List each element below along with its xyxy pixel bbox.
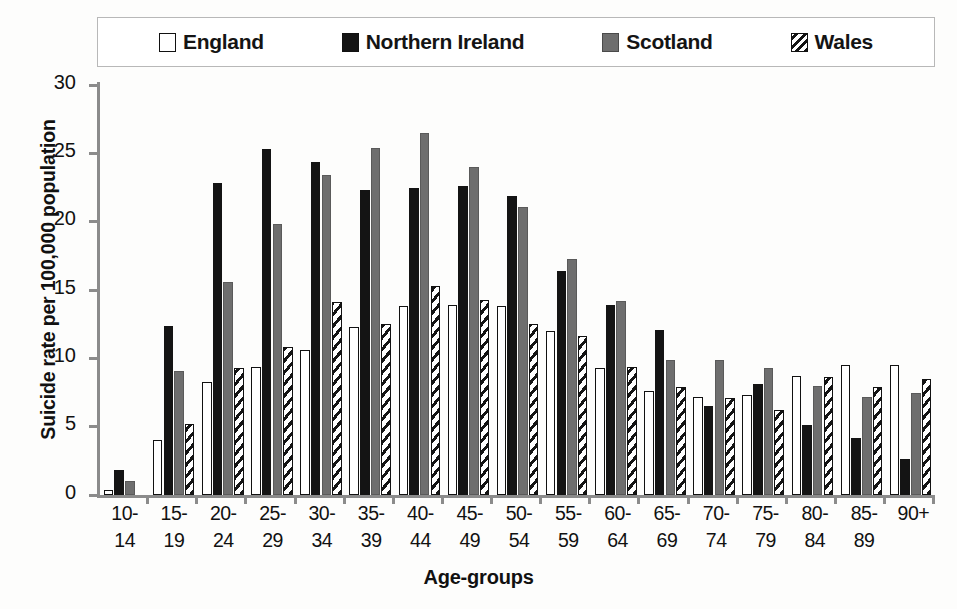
bar-england: [841, 365, 851, 495]
x-axis-tick-label: 85-89: [839, 500, 888, 554]
y-axis-tick-label: 10: [38, 344, 76, 367]
bar-group: [640, 85, 689, 495]
legend-item-scotland: Scotland: [602, 30, 712, 54]
bar-scotland: [666, 360, 676, 495]
bar-northern-ireland: [704, 406, 714, 495]
bar-wales: [480, 300, 490, 495]
bar-northern-ireland: [213, 183, 223, 495]
x-axis-line: [97, 495, 935, 498]
bar-group: [346, 85, 395, 495]
bar-scotland: [862, 397, 872, 495]
x-axis-tick-label: 90+: [889, 500, 938, 554]
chart-legend: England Northern Ireland Scotland Wales: [97, 17, 935, 67]
x-axis-tick-label: 25-29: [248, 500, 297, 554]
bar-wales: [774, 410, 784, 495]
x-axis-tick-label: 30-34: [297, 500, 346, 554]
x-axis-tick-label: 15-19: [149, 500, 198, 554]
y-axis-tick: 15: [89, 289, 98, 292]
y-axis-tick: 30: [89, 84, 98, 87]
bar-group: [247, 85, 296, 495]
y-axis-tick: 25: [89, 152, 98, 155]
bar-northern-ireland: [655, 330, 665, 495]
legend-label-wales: Wales: [815, 30, 873, 54]
bar-group: [542, 85, 591, 495]
legend-label-england: England: [183, 30, 264, 54]
bar-wales: [627, 367, 637, 495]
x-axis-tick-labels: 10-1415-1920-2425-2930-3435-3940-4445-49…: [100, 500, 938, 554]
bar-scotland: [371, 148, 381, 495]
bar-group: [149, 85, 198, 495]
bar-scotland: [125, 481, 135, 495]
x-axis-tick-label: 80-84: [790, 500, 839, 554]
bar-england: [742, 395, 752, 495]
bar-england: [104, 490, 114, 495]
bar-scotland: [911, 393, 921, 496]
legend-item-northern-ireland: Northern Ireland: [342, 30, 525, 54]
bar-england: [693, 397, 703, 495]
bar-wales: [234, 368, 244, 495]
bar-northern-ireland: [802, 425, 812, 495]
bar-england: [644, 391, 654, 495]
bar-group: [444, 85, 493, 495]
bar-scotland: [273, 224, 283, 495]
bar-northern-ireland: [557, 271, 567, 495]
x-axis-tick-label: 20-24: [199, 500, 248, 554]
bar-england: [251, 367, 261, 495]
bar-northern-ireland: [164, 326, 174, 495]
bar-wales: [824, 377, 834, 495]
y-axis-tick-label: 0: [38, 481, 76, 504]
y-axis-tick-label: 20: [38, 207, 76, 230]
bar-england: [448, 305, 458, 495]
y-axis-tick: 0: [89, 494, 98, 497]
x-axis-tick-label: 70-74: [692, 500, 741, 554]
bar-wales: [922, 379, 932, 495]
legend-label-scotland: Scotland: [626, 30, 712, 54]
x-axis-tick-label: 35-39: [346, 500, 395, 554]
bar-wales: [676, 387, 686, 495]
bar-northern-ireland: [606, 305, 616, 495]
bar-scotland: [322, 175, 332, 495]
legend-item-england: England: [159, 30, 264, 54]
x-axis-tick-label: 50-54: [494, 500, 543, 554]
bar-england: [890, 365, 900, 495]
bar-england: [153, 440, 163, 495]
x-axis-tick-label: 55-59: [544, 500, 593, 554]
bar-england: [792, 376, 802, 495]
y-axis-tick: 10: [89, 357, 98, 360]
y-axis-tick-label: 15: [38, 276, 76, 299]
bar-group: [297, 85, 346, 495]
bar-northern-ireland: [507, 196, 517, 495]
x-axis-tick-label: 60-64: [593, 500, 642, 554]
suicide-rate-bar-chart: England Northern Ireland Scotland Wales …: [0, 0, 957, 609]
bar-northern-ireland: [458, 186, 468, 495]
bar-group: [591, 85, 640, 495]
bar-northern-ireland: [409, 188, 419, 496]
bar-group: [198, 85, 247, 495]
bar-scotland: [174, 371, 184, 495]
bar-scotland: [813, 386, 823, 495]
bar-northern-ireland: [753, 384, 763, 495]
x-axis-tick-label: 45-49: [445, 500, 494, 554]
england-swatch-icon: [159, 33, 176, 52]
bar-group: [493, 85, 542, 495]
x-axis-tick-label: 65-69: [642, 500, 691, 554]
bar-wales: [185, 424, 195, 495]
bar-groups: [100, 85, 935, 495]
bar-england: [595, 368, 605, 495]
bar-wales: [381, 324, 391, 495]
bar-northern-ireland: [900, 459, 910, 495]
y-axis-tick: 20: [89, 220, 98, 223]
bar-group: [395, 85, 444, 495]
y-axis-tick-label: 5: [38, 412, 76, 435]
bar-england: [546, 331, 556, 495]
bar-england: [497, 306, 507, 495]
bar-northern-ireland: [311, 162, 321, 495]
bar-group: [837, 85, 886, 495]
bar-group: [788, 85, 837, 495]
bar-scotland: [518, 207, 528, 495]
x-axis-tick-label: 75-79: [741, 500, 790, 554]
wales-swatch-icon: [791, 33, 808, 52]
plot-area: 051015202530: [97, 85, 935, 495]
bar-scotland: [567, 259, 577, 495]
bar-england: [202, 382, 212, 495]
